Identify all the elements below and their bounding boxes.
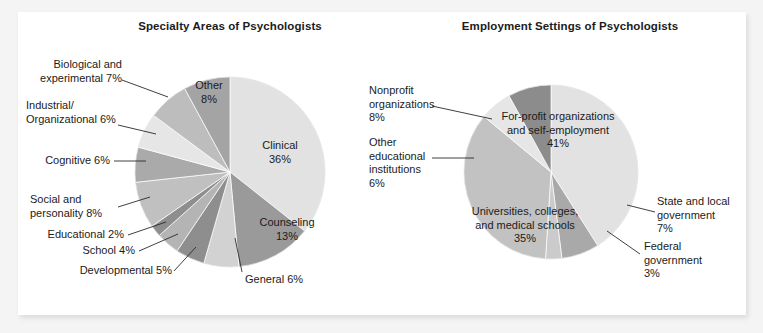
slice-label-educational: Educational 2% (30, 228, 124, 242)
slice-label-state-local: State and local government 7% (657, 195, 757, 236)
figure-page: Specialty Areas of Psychologists Employm… (0, 0, 763, 333)
slice-label-clinical: Clinical 36% (244, 139, 316, 166)
slice-label-cognitive: Cognitive 6% (20, 154, 110, 168)
slice-label-developmental: Developmental 5% (45, 264, 172, 278)
slice-label-general: General 6% (245, 273, 335, 287)
slice-label-other-educational: Other educational institutions 6% (369, 136, 441, 190)
slice-label-universities: Universities, colleges, and medical scho… (455, 205, 595, 246)
leader-biological (122, 80, 168, 97)
slice-label-biological: Biological and experimental 7% (20, 58, 122, 85)
slice-label-social: Social and personality 8% (30, 193, 122, 220)
slice-label-forprofit: For-profit organizations and self-employ… (484, 110, 632, 151)
leader-federal (607, 231, 640, 254)
leader-state-local (627, 205, 655, 212)
slice-label-other: Other 8% (182, 79, 236, 106)
slice-label-federal: Federal government 3% (644, 240, 736, 281)
slice-label-nonprofit: Nonprofit organizations 8% (369, 84, 449, 125)
slice-label-counseling: Counseling 13% (244, 216, 330, 243)
slice-label-industrial: Industrial/ Organizational 6% (26, 99, 134, 126)
slice-label-school: School 4% (45, 244, 135, 258)
